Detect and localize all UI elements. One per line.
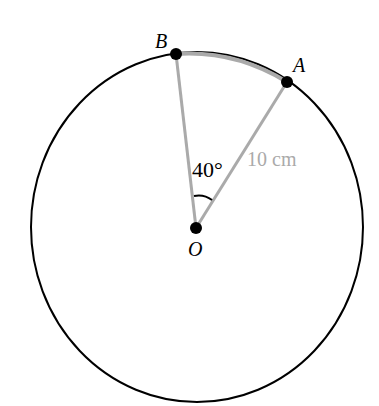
radius-ob [176,54,196,228]
label-b: B [155,30,167,52]
point-b [170,48,182,60]
angle-label: 40° [192,157,223,182]
sector-diagram: B A O 40° 10 cm [0,0,379,406]
point-a [281,76,293,88]
angle-arc [194,196,212,201]
point-o [190,222,202,234]
label-o: O [188,238,202,260]
radius-label: 10 cm [247,148,297,170]
arc-ab [176,54,287,82]
label-a: A [291,54,306,76]
